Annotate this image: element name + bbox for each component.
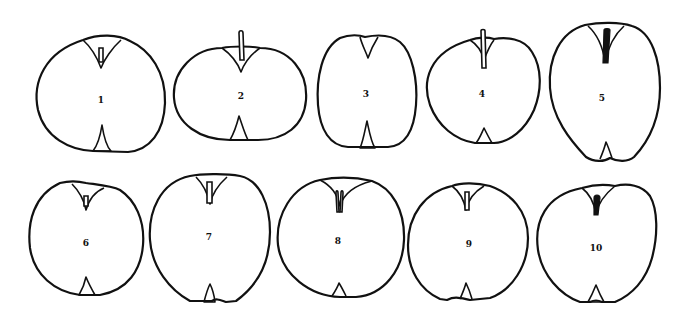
apple-shapes-figure: 1 2 3 4 5 6 [0, 0, 673, 319]
apple-4: 4 [427, 30, 540, 144]
apple-9: 9 [408, 183, 528, 300]
apple-label-5: 5 [599, 93, 605, 103]
apple-label-4: 4 [479, 89, 485, 99]
apple-label-7: 7 [206, 232, 212, 242]
apple-1: 1 [37, 36, 165, 152]
apple-2: 2 [174, 31, 306, 140]
apple-label-9: 9 [466, 239, 472, 249]
apple-label-3: 3 [363, 89, 369, 99]
apple-6: 6 [29, 182, 143, 296]
apple-label-1: 1 [98, 95, 104, 105]
apple-8: 8 [278, 178, 404, 297]
apple-3: 3 [318, 35, 417, 148]
apple-label-8: 8 [335, 236, 341, 246]
apple-label-6: 6 [83, 238, 89, 248]
apple-5: 5 [550, 23, 660, 161]
apple-label-10: 10 [590, 243, 603, 253]
apple-10: 10 [537, 185, 656, 302]
apple-7: 7 [150, 174, 270, 302]
apple-label-2: 2 [238, 91, 244, 101]
